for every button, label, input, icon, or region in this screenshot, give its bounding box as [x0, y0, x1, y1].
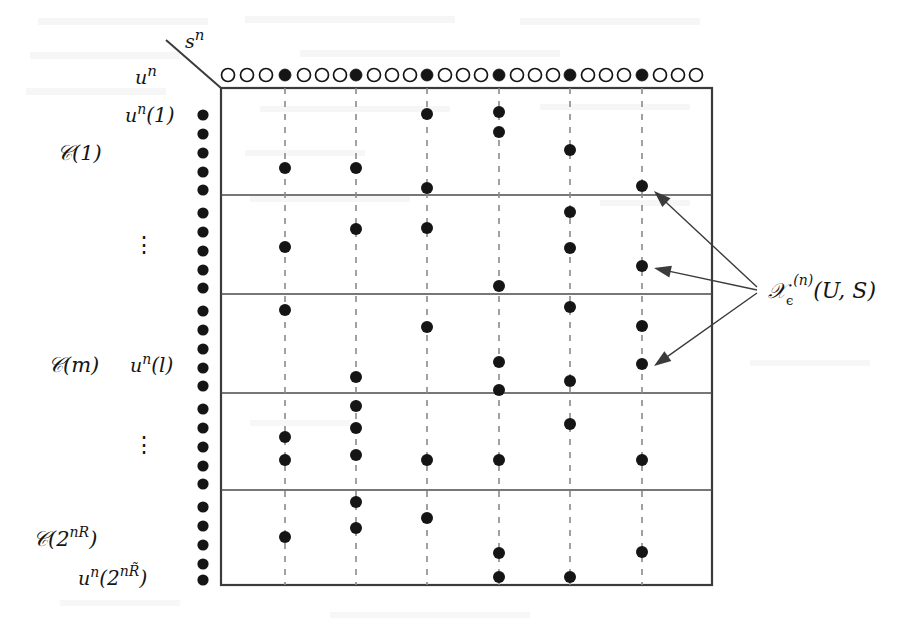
left-column-dot-12 [197, 324, 208, 335]
left-column-dot-5 [197, 184, 208, 195]
left-column-dot-19 [197, 460, 208, 471]
grid-dot-38 [636, 320, 648, 332]
vdots-upper: ⋮ [133, 232, 155, 257]
grid-dot-30 [564, 206, 576, 218]
left-column-dot-23 [197, 539, 208, 550]
grid-dot-26 [493, 454, 505, 466]
grid-dot-18 [421, 321, 433, 333]
grid-dot-25 [493, 384, 505, 396]
row-label-c-m: 𝒞(m) [48, 353, 99, 377]
top-row-open-circle-21 [582, 69, 595, 82]
top-row-open-circle-13 [439, 69, 452, 82]
top-row-open-circle-17 [511, 69, 524, 82]
left-column-dot-13 [197, 343, 208, 354]
grid-dot-37 [636, 260, 648, 272]
top-row-open-circle-2 [241, 69, 254, 82]
left-column-dot-20 [197, 478, 208, 489]
left-column-dot-22 [197, 520, 208, 531]
top-row-filled-circle-4 [279, 69, 291, 81]
grid-dot-35 [564, 571, 576, 583]
left-column-dot-14 [197, 362, 208, 373]
top-row-open-circle-22 [600, 69, 613, 82]
left-column-dot-11 [197, 305, 208, 316]
left-column-dot-6 [197, 207, 208, 218]
left-column-dot-4 [197, 166, 208, 177]
left-column-dot-15 [197, 380, 208, 391]
grid-dot-17 [421, 222, 433, 234]
figure-root: sn un un(1) 𝒞(1) ⋮ 𝒞(m) un(l) ⋮ 𝒞(2nR) u… [0, 0, 924, 627]
grid-dot-40 [636, 454, 648, 466]
grid-dot-24 [493, 356, 505, 368]
row-label-un-l: un(l) [130, 351, 173, 377]
grid-dot-16 [421, 182, 433, 194]
grid-dot-2 [279, 241, 291, 253]
top-row-open-circle-18 [529, 69, 542, 82]
row-label-un-1: un(1) [125, 101, 175, 127]
grid-dot-21 [493, 106, 505, 118]
left-column-dot-21 [197, 501, 208, 512]
top-row-open-circle-15 [475, 69, 488, 82]
top-row-filled-circle-24 [636, 69, 648, 81]
grid-dot-31 [564, 242, 576, 254]
top-row-open-circle-26 [672, 69, 685, 82]
grid-dot-36 [636, 180, 648, 192]
grid-dot-9 [350, 371, 362, 383]
grid-dot-10 [350, 400, 362, 412]
grid-dot-29 [564, 144, 576, 156]
top-row-open-circle-9 [368, 69, 381, 82]
grid-dot-5 [279, 454, 291, 466]
grid-dot-13 [350, 496, 362, 508]
grid-dot-20 [421, 512, 433, 524]
top-row-filled-circle-16 [493, 69, 505, 81]
left-column-dot-7 [197, 226, 208, 237]
grid-dot-3 [279, 304, 291, 316]
grid-dot-7 [350, 162, 362, 174]
left-column-dot-2 [197, 128, 208, 139]
left-column-dot-24 [197, 558, 208, 569]
top-row-open-circle-10 [386, 69, 399, 82]
top-row-open-circle-1 [222, 69, 235, 82]
top-row-open-circle-5 [298, 69, 311, 82]
grid-dot-23 [493, 280, 505, 292]
grid-dot-32 [564, 301, 576, 313]
top-row-open-circle-11 [404, 69, 417, 82]
grid-dot-41 [636, 546, 648, 558]
vdots-lower: ⋮ [133, 432, 155, 457]
left-column-dot-1 [197, 109, 208, 120]
top-row-filled-circle-12 [421, 69, 433, 81]
grid-dot-28 [493, 571, 505, 583]
grid-dot-33 [564, 375, 576, 387]
top-row-open-circle-23 [618, 69, 631, 82]
left-column-dot-9 [197, 264, 208, 275]
grid-dot-15 [421, 108, 433, 120]
left-column-dot-10 [197, 282, 208, 293]
left-column-dot-8 [197, 245, 208, 256]
grid-dot-34 [564, 418, 576, 430]
left-column-dot-16 [197, 403, 208, 414]
top-row-open-circle-3 [260, 69, 273, 82]
grid-dot-39 [636, 358, 648, 370]
grid-dot-11 [350, 422, 362, 434]
grid-dot-1 [279, 162, 291, 174]
top-row-open-circle-19 [547, 69, 560, 82]
grid-dot-27 [493, 547, 505, 559]
left-column-dot-3 [197, 147, 208, 158]
top-row-filled-circle-8 [350, 69, 362, 81]
left-column-dot-17 [197, 422, 208, 433]
top-row-open-circle-6 [316, 69, 329, 82]
grid-dot-8 [350, 223, 362, 235]
top-row-open-circle-7 [334, 69, 347, 82]
top-row-open-circle-27 [690, 69, 703, 82]
left-column-dot-18 [197, 441, 208, 452]
left-column-dot-25 [197, 574, 208, 585]
grid-dot-12 [350, 449, 362, 461]
top-row-filled-circle-20 [564, 69, 576, 81]
top-row-open-circle-25 [654, 69, 667, 82]
grid-dot-19 [421, 454, 433, 466]
top-row-open-circle-14 [457, 69, 470, 82]
codebook-grid-figure: sn un un(1) 𝒞(1) ⋮ 𝒞(m) un(l) ⋮ 𝒞(2nR) u… [0, 0, 924, 627]
row-label-c-1: 𝒞(1) [57, 141, 102, 165]
grid-dot-6 [279, 531, 291, 543]
grid-dot-22 [493, 126, 505, 138]
grid-dot-14 [350, 522, 362, 534]
